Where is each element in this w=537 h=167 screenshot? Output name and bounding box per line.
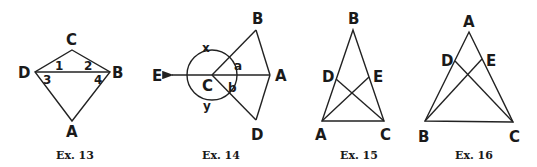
segment-ba — [256, 30, 270, 75]
caption-ex16: Ex. 16 — [455, 149, 493, 162]
figure-ex13: C D B A 1 2 3 4 Ex. 13 — [18, 31, 123, 162]
angle-label-3: 3 — [43, 73, 51, 87]
angle-label-4: 4 — [94, 73, 102, 87]
figure-ex15: B D E A C Ex. 15 — [315, 10, 391, 162]
figure-ex16: A D E B C Ex. 16 — [418, 13, 520, 162]
vertex-label-a: A — [315, 126, 327, 144]
vertex-label-d: D — [18, 64, 30, 82]
segment-ad — [256, 75, 270, 120]
vertex-label-e: E — [373, 68, 383, 86]
vertex-label-a: A — [463, 13, 475, 31]
vertex-label-d: D — [251, 126, 263, 144]
angle-label-y: y — [203, 99, 211, 113]
vertex-label-d: D — [322, 68, 334, 86]
vertex-label-b: B — [252, 10, 263, 28]
figure-ex14: B E C A D x y a b Ex. 14 — [152, 10, 287, 162]
vertex-label-a: A — [66, 123, 78, 141]
vertex-label-b: B — [418, 128, 429, 146]
segment-cd — [455, 61, 513, 122]
geometry-exercises: C D B A 1 2 3 4 Ex. 13 B E C A D x y a b… — [0, 0, 537, 167]
vertex-label-c: C — [66, 31, 77, 49]
vertex-label-c: C — [509, 128, 520, 146]
vertex-label-b: B — [112, 64, 123, 82]
angle-label-a: a — [234, 59, 242, 73]
angle-label-x: x — [202, 41, 210, 55]
caption-ex13: Ex. 13 — [56, 149, 94, 162]
angle-label-2: 2 — [84, 59, 92, 73]
vertex-label-e: E — [486, 52, 496, 70]
angle-label-b: b — [228, 81, 237, 95]
vertex-label-b: B — [348, 10, 359, 28]
vertex-label-a: A — [275, 67, 287, 85]
vertex-label-d: D — [441, 52, 453, 70]
caption-ex14: Ex. 14 — [202, 149, 240, 162]
vertex-label-c: C — [202, 77, 213, 95]
caption-ex15: Ex. 15 — [340, 149, 378, 162]
vertex-label-c: C — [380, 126, 391, 144]
vertex-label-e: E — [152, 67, 162, 85]
segment-be — [425, 59, 482, 121]
angle-label-1: 1 — [55, 59, 63, 73]
